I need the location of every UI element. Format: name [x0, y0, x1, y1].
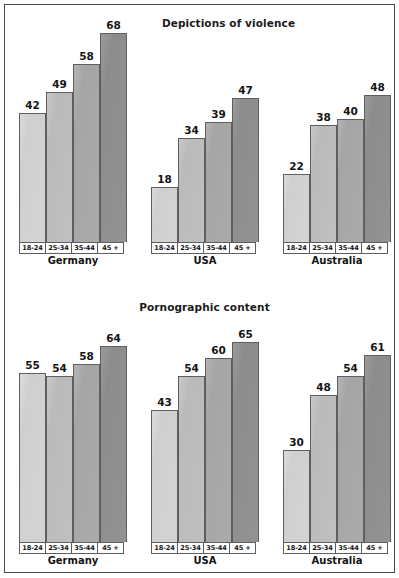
chart-panel-pornographic-content: Pornographic content 5554586418-2425-343… — [5, 288, 396, 574]
bar[interactable] — [151, 187, 178, 242]
bar-cell: 64 — [100, 346, 127, 542]
bar[interactable] — [205, 358, 232, 542]
bar[interactable] — [364, 95, 391, 242]
bar-group-germany: 42495868 — [19, 33, 127, 242]
bar[interactable] — [283, 174, 310, 242]
bar[interactable] — [100, 33, 127, 242]
bar-cell: 54 — [46, 376, 73, 542]
bar[interactable] — [337, 376, 364, 542]
bar-cell: 38 — [310, 125, 337, 242]
age-label-25-34: 25-34 — [177, 242, 204, 254]
age-label-25-34: 25-34 — [309, 542, 336, 554]
bar[interactable] — [337, 119, 364, 242]
country-label-usa: USA — [151, 255, 259, 266]
bar-cell: 54 — [337, 376, 364, 542]
bar[interactable] — [178, 138, 205, 242]
age-label-35-44: 35-44 — [335, 542, 362, 554]
country-label-australia: Australia — [283, 555, 391, 566]
bar[interactable] — [310, 125, 337, 242]
bar[interactable] — [364, 355, 391, 542]
bar-value-label: 40 — [341, 105, 360, 118]
age-label-18-24: 18-24 — [19, 542, 46, 554]
bar[interactable] — [232, 342, 259, 542]
bar-cell: 34 — [178, 138, 205, 242]
plot-area: 4249586818-2425-3435-4445 +Germany183439… — [5, 5, 396, 288]
bar[interactable] — [19, 113, 46, 242]
bar-cell: 61 — [364, 355, 391, 542]
bar-cell: 47 — [232, 98, 259, 242]
bar-value-label: 39 — [209, 108, 228, 121]
age-label-18-24: 18-24 — [19, 242, 46, 254]
bar-value-label: 48 — [314, 381, 333, 394]
bar-cell: 49 — [46, 92, 73, 242]
bar-value-label: 65 — [236, 328, 255, 341]
age-label-25-34: 25-34 — [45, 542, 72, 554]
age-label-18-24: 18-24 — [151, 542, 178, 554]
age-label-45-: 45 + — [97, 242, 124, 254]
bar-cell: 39 — [205, 122, 232, 242]
bar[interactable] — [151, 410, 178, 542]
bar-cell: 58 — [73, 364, 100, 542]
bar[interactable] — [73, 364, 100, 542]
bar-value-label: 30 — [287, 436, 306, 449]
bar-cell: 58 — [73, 64, 100, 242]
chart-panel-depictions-of-violence: Depictions of violence 4249586818-2425-3… — [5, 5, 396, 288]
bar[interactable] — [19, 373, 46, 542]
bar-group-usa: 43546065 — [151, 342, 259, 542]
bar[interactable] — [100, 346, 127, 542]
bar-value-label: 38 — [314, 111, 333, 124]
bar-value-label: 64 — [104, 332, 123, 345]
bar-cell: 40 — [337, 119, 364, 242]
bar-cell: 22 — [283, 174, 310, 242]
age-label-45-: 45 + — [361, 542, 388, 554]
figure-frame: Depictions of violence 4249586818-2425-3… — [4, 4, 395, 573]
age-label-25-34: 25-34 — [309, 242, 336, 254]
bar-cell: 65 — [232, 342, 259, 542]
bar-cell: 43 — [151, 410, 178, 542]
bar[interactable] — [283, 450, 310, 542]
bar-value-label: 61 — [368, 341, 387, 354]
bar-value-label: 34 — [182, 124, 201, 137]
bar-cell: 42 — [19, 113, 46, 242]
bar-value-label: 54 — [50, 362, 69, 375]
bar-value-label: 68 — [104, 19, 123, 32]
bar[interactable] — [310, 395, 337, 542]
age-label-18-24: 18-24 — [283, 242, 310, 254]
age-label-45-: 45 + — [97, 542, 124, 554]
bar-group-australia: 22384048 — [283, 95, 391, 242]
bar-cell: 55 — [19, 373, 46, 542]
age-label-row: 18-2425-3435-4445 + — [19, 242, 124, 254]
country-label-usa: USA — [151, 555, 259, 566]
bar[interactable] — [232, 98, 259, 242]
bar-cell: 68 — [100, 33, 127, 242]
age-label-35-44: 35-44 — [203, 542, 230, 554]
bar-value-label: 49 — [50, 78, 69, 91]
age-label-45-: 45 + — [229, 242, 256, 254]
bar[interactable] — [73, 64, 100, 242]
bar[interactable] — [46, 376, 73, 542]
bar-value-label: 55 — [23, 359, 42, 372]
age-label-row: 18-2425-3435-4445 + — [151, 542, 256, 554]
bar[interactable] — [178, 376, 205, 542]
bar-value-label: 47 — [236, 84, 255, 97]
country-label-australia: Australia — [283, 255, 391, 266]
age-label-18-24: 18-24 — [283, 542, 310, 554]
bar[interactable] — [205, 122, 232, 242]
age-label-45-: 45 + — [229, 542, 256, 554]
bar-value-label: 54 — [182, 362, 201, 375]
bar-value-label: 58 — [77, 50, 96, 63]
bar-cell: 18 — [151, 187, 178, 242]
bar-value-label: 58 — [77, 350, 96, 363]
bar-value-label: 60 — [209, 344, 228, 357]
bar-group-australia: 30485461 — [283, 355, 391, 542]
age-label-35-44: 35-44 — [203, 242, 230, 254]
age-label-25-34: 25-34 — [177, 542, 204, 554]
age-label-35-44: 35-44 — [71, 242, 98, 254]
age-label-row: 18-2425-3435-4445 + — [151, 242, 256, 254]
bar-group-usa: 18343947 — [151, 98, 259, 242]
country-label-germany: Germany — [19, 255, 127, 266]
bar[interactable] — [46, 92, 73, 242]
bar-value-label: 22 — [287, 160, 306, 173]
country-label-germany: Germany — [19, 555, 127, 566]
bar-value-label: 48 — [368, 81, 387, 94]
